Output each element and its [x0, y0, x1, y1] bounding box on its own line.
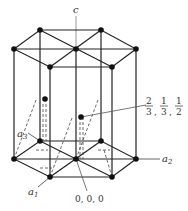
- svg-text:1: 1: [176, 96, 182, 106]
- a1-axis-label: a1: [28, 186, 38, 199]
- svg-text:3: 3: [146, 107, 152, 117]
- svg-text:1: 1: [161, 96, 167, 106]
- svg-text:2: 2: [176, 107, 182, 117]
- interior-atoms: [42, 96, 84, 120]
- vertical-edges: [14, 30, 136, 177]
- hidden-edges: [14, 100, 112, 177]
- svg-text:2: 2: [146, 96, 152, 106]
- corner-atoms: [11, 27, 139, 180]
- a2-axis-label: a2: [162, 153, 173, 166]
- interior-atom-coordinates: 2 3 , 1 3 , 1 2: [145, 96, 183, 117]
- svg-text:3: 3: [161, 107, 167, 117]
- c-axis-label: c: [73, 4, 79, 15]
- svg-text:,: ,: [154, 107, 157, 117]
- a3-axis-label: a3: [17, 128, 28, 141]
- origin-label: 0, 0, 0: [75, 194, 104, 204]
- hcp-unit-cell-diagram: c: [0, 0, 188, 211]
- svg-text:,: ,: [169, 107, 172, 117]
